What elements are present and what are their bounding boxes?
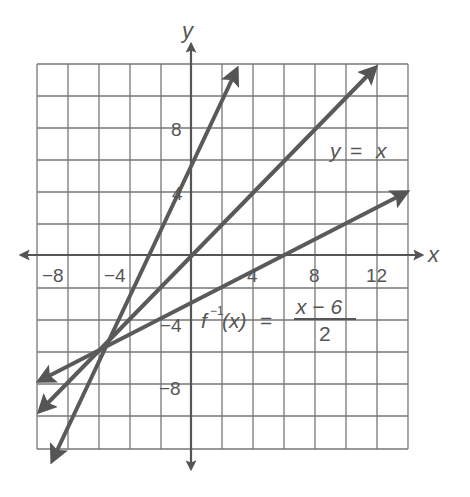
graph-canvas: y x −8 −4 4 8 12 8 4 −4 −8 y = x f −1 (x…	[0, 0, 470, 497]
line-y-equals-x	[41, 69, 374, 410]
svg-text:=: =	[350, 139, 362, 162]
x-axis-label: x	[427, 242, 440, 267]
label-y-equals-x: y = x	[328, 139, 388, 162]
svg-text:=: =	[260, 309, 272, 332]
tick-y-8: 8	[171, 119, 182, 140]
grid	[37, 64, 408, 449]
tick-y-neg4: −4	[160, 315, 182, 336]
y-axis-label: y	[180, 18, 195, 43]
label-f-inverse: f −1 (x) = x − 6 2	[198, 295, 358, 348]
line-f	[53, 71, 236, 459]
tick-x-12: 12	[366, 265, 387, 286]
svg-text:2: 2	[319, 322, 331, 345]
svg-text:y: y	[328, 139, 342, 162]
tick-x-8: 8	[309, 265, 320, 286]
tick-x-4: 4	[247, 265, 258, 286]
svg-text:(x): (x)	[222, 309, 247, 332]
tick-x-neg8: −8	[42, 265, 64, 286]
tick-y-neg8: −8	[159, 378, 181, 399]
svg-text:x − 6: x − 6	[295, 295, 342, 318]
svg-text:x: x	[375, 139, 388, 162]
tick-x-neg4: −4	[104, 265, 126, 286]
tick-y-4: 4	[172, 183, 183, 204]
